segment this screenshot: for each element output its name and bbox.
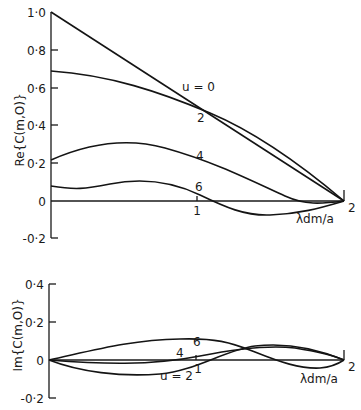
y-tick-label: 0·4 (27, 119, 46, 133)
x-tick-label: 2 (348, 360, 356, 374)
y-tick-label: 0 (38, 195, 46, 209)
y-tick-label: 1·0 (27, 6, 46, 20)
lower-plot: 0·4 0·2 0 -0·2 1 2 λdm/a Im{C(m,O)} 6 4 … (11, 278, 356, 406)
curve-label-u4: 4 (176, 346, 184, 360)
curve-label-u6: 6 (195, 180, 203, 194)
curve-label-u2: 2 (197, 111, 205, 125)
x-axis-label: λdm/a (300, 372, 338, 386)
x-axis-label: λdm/a (296, 212, 334, 226)
upper-plot: 1·0 0·8 0·6 0·4 0·2 0 -0·2 1 2 λdm/a Re{… (13, 6, 356, 246)
y-tick-label: -0·2 (23, 232, 46, 246)
x-tick-label: 2 (348, 201, 356, 215)
y-tick-label: -0·2 (21, 392, 44, 406)
y-tick-label: 0·4 (25, 278, 44, 292)
curve-label-u0: u = 0 (182, 80, 215, 94)
curve-label-u6: 6 (193, 335, 201, 349)
curve-u0 (51, 12, 344, 201)
y-tick-label: 0·2 (27, 157, 46, 171)
y-axis-label: Im{C(m,O)} (11, 298, 25, 371)
curve-label-u2: u = 2 (160, 369, 193, 383)
y-tick-label: 0·2 (25, 316, 44, 330)
y-tick-label: 0 (36, 354, 44, 368)
x-tick-label: 1 (193, 204, 201, 218)
curve-label-u4: 4 (196, 149, 204, 163)
chart-figure: 1·0 0·8 0·6 0·4 0·2 0 -0·2 1 2 λdm/a Re{… (0, 0, 361, 410)
y-tick-label: 0·8 (27, 44, 46, 58)
y-axis-label: Re{C(m,O)} (13, 93, 27, 166)
y-tick-label: 0·6 (27, 82, 46, 96)
